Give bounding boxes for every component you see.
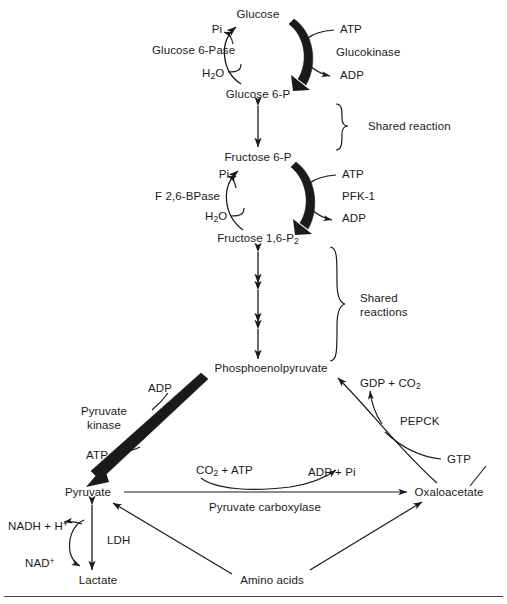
cofactor-pi-mid: Pi xyxy=(219,168,229,181)
arrow-glucose-to-glucose6p-thick xyxy=(289,19,313,85)
arrow-atp-in-mid xyxy=(310,175,336,183)
cofactor-adp-top: ADP xyxy=(340,69,364,82)
metabolite-pyruvate: Pyruvate xyxy=(65,486,111,499)
enzyme-pfk-1: PFK-1 xyxy=(342,190,375,203)
metabolite-fructose-1-6-p2: Fructose 1,6-P2 xyxy=(217,232,299,248)
enzyme-glucokinase: Glucokinase xyxy=(336,46,400,59)
cofactor-adp-pi: ADP + Pi xyxy=(308,466,356,479)
arrow-nadh-to-nad xyxy=(70,520,84,566)
arrow-gtp-in xyxy=(385,432,441,459)
arrow-h2o-in-mid xyxy=(231,208,244,216)
metabolite-glucose: Glucose xyxy=(237,8,280,21)
line-oxaloacetate-stub xyxy=(470,466,486,486)
cofactor-co2-atp: CO2 + ATP xyxy=(196,464,253,480)
bracket-shared-reaction xyxy=(336,104,348,150)
bottom-divider-rule xyxy=(4,596,503,597)
bracket-shared-reactions xyxy=(330,247,345,361)
cofactor-atp-top: ATP xyxy=(340,23,362,36)
cofactor-nad-plus: NAD+ xyxy=(25,555,55,570)
enzyme-pepck: PEPCK xyxy=(400,415,440,428)
enzyme-ldh: LDH xyxy=(107,534,130,547)
metabolite-oxaloacetate: Oxaloacetate xyxy=(415,486,484,499)
arrow-aminoacids-to-pyruvate xyxy=(113,503,232,574)
enzyme-glucose-6-pase: Glucose 6-Pase xyxy=(152,44,235,57)
label-shared-reactions: Shared reactions xyxy=(360,291,408,319)
metabolite-lactate: Lactate xyxy=(79,574,117,587)
metabolite-glucose-6-p: Glucose 6-P xyxy=(226,88,290,101)
cofactor-atp-mid: ATP xyxy=(342,168,364,181)
cofactor-gdp-co2: GDP + CO2 xyxy=(360,377,421,393)
cofactor-h2o-mid: H2O xyxy=(205,210,227,226)
label-shared-reaction: Shared reaction xyxy=(368,120,451,133)
enzyme-pyruvate-carboxylase: Pyruvate carboxylase xyxy=(209,501,321,514)
cofactor-adp-mid: ADP xyxy=(342,212,366,225)
cofactor-nadh-h: NADH + H+ xyxy=(8,518,68,533)
cofactor-pi-top: Pi xyxy=(212,23,222,36)
metabolite-fructose-6-p: Fructose 6-P xyxy=(224,151,291,164)
enzyme-f-2-6-bpase: F 2,6-BPase xyxy=(155,190,220,203)
cofactor-adp-pyruvate-kinase: ADP xyxy=(148,382,172,395)
cofactor-gtp: GTP xyxy=(447,453,471,466)
arrow-atp-in-top xyxy=(308,30,334,38)
arrow-h2o-in-top xyxy=(228,64,241,72)
pathway-diagram-canvas: Glucose Glucose 6-P Fructose 6-P Fructos… xyxy=(0,0,507,604)
arrow-fructose6p-to-fbp-thick xyxy=(291,162,315,229)
cofactor-atp-pyruvate-kinase: ATP xyxy=(86,449,108,462)
cofactor-h2o-top: H2O xyxy=(202,67,224,83)
arrow-aminoacids-to-oxaloacetate xyxy=(310,502,422,570)
enzyme-pyruvate-kinase: Pyruvate kinase xyxy=(81,404,127,432)
metabolite-amino-acids: Amino acids xyxy=(240,574,304,587)
metabolite-phosphoenolpyruvate: Phosphoenolpyruvate xyxy=(214,362,327,375)
